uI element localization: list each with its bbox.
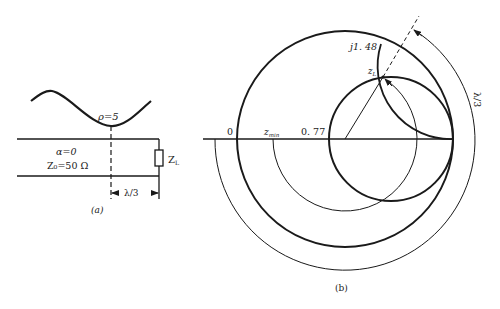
zl-label: zL <box>367 66 376 77</box>
vswr-circle-arc <box>273 82 417 211</box>
load-resistor <box>155 150 163 166</box>
impedance-label: Z₀=50 Ω <box>47 160 88 171</box>
resistance-label: 0. 77 <box>301 126 325 137</box>
vswr-label: ρ=5 <box>97 111 119 122</box>
rotation-arc <box>215 30 475 270</box>
reactance-label: j1. 48 <box>348 41 377 52</box>
radial-dashed-extension <box>383 16 419 77</box>
figure-b-caption: (b) <box>335 283 348 293</box>
load-label: ZL <box>168 154 179 166</box>
figure-b: 0 zmin 0. 77 j1. 48 zL λ/3 (b) <box>203 16 483 293</box>
zl-point <box>381 75 384 78</box>
vswr-arc-arrow <box>385 79 392 86</box>
attenuation-label: α=0 <box>56 146 76 157</box>
distance-label: λ/3 <box>124 188 139 198</box>
zmin-label: zmin <box>263 127 280 138</box>
radial-line-to-zl <box>345 77 383 139</box>
figure-a: ZL ρ=5 α=0 Z₀=50 Ω λ/3 (a) <box>17 91 179 215</box>
rotation-arc-arrow <box>414 30 422 36</box>
origin-label: 0 <box>227 126 233 137</box>
figure-a-caption: (a) <box>91 205 104 215</box>
standing-wave-curve <box>31 91 151 126</box>
figure-canvas: ZL ρ=5 α=0 Z₀=50 Ω λ/3 (a) 0 zmin 0. 77 … <box>0 0 500 309</box>
diagram-svg: ZL ρ=5 α=0 Z₀=50 Ω λ/3 (a) 0 zmin 0. 77 … <box>0 0 500 309</box>
rotation-label: λ/3 <box>472 92 483 107</box>
